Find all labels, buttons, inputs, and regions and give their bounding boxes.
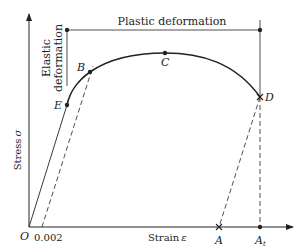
point-E-dot [65, 103, 69, 107]
point-B-label: B [76, 61, 85, 74]
point-E-label: E [53, 99, 62, 112]
point-B-dot [88, 70, 92, 74]
region-top-label: Plastic deformation [118, 15, 227, 28]
stress-strain-diagram: Plastic deformation Elastic deformation … [0, 0, 305, 250]
point-D-label: D [264, 91, 274, 104]
point-C-dot [163, 51, 167, 55]
region-left-dot [65, 28, 69, 32]
x-axis-label: Strainε [148, 232, 187, 243]
region-right-dot [258, 28, 262, 32]
offset-label: 0.002 [34, 232, 63, 243]
offset-dashed-line [42, 66, 93, 227]
point-At-label: At [254, 234, 266, 248]
origin-label: O [20, 230, 29, 243]
unloading-line-D-A [219, 97, 260, 227]
region-left-label-2: deformation [52, 24, 65, 92]
y-axis-label: Stressσ [12, 128, 23, 170]
point-At-dot [258, 225, 262, 229]
point-C-label: C [161, 56, 170, 69]
point-A-label: A [214, 234, 223, 247]
